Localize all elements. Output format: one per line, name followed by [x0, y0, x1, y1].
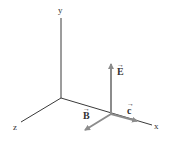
speed-of-light-vector	[111, 114, 137, 121]
e-vector-label: → E	[117, 67, 124, 77]
z-axis-label: z	[13, 123, 17, 132]
y-axis-label: y	[58, 6, 63, 15]
x-axis	[61, 98, 152, 125]
vector-arrow-icon: →	[117, 62, 124, 69]
vector-arrow-icon: →	[127, 101, 134, 108]
x-axis-label: x	[154, 122, 159, 131]
z-axis	[21, 98, 61, 122]
vector-arrow-icon: →	[83, 106, 90, 113]
b-vector-label: → B	[83, 111, 90, 121]
c-vector-label: → c	[127, 106, 131, 116]
